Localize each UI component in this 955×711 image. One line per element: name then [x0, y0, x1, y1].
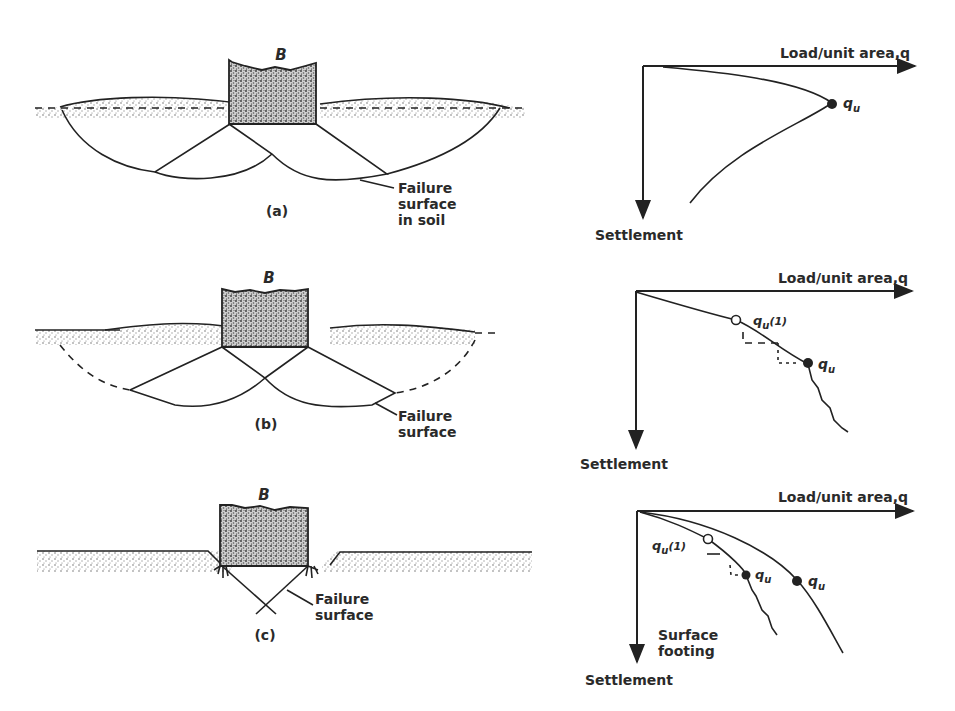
failure-label-c-2: surface [315, 607, 374, 623]
failure-label-b-2: surface [398, 424, 457, 440]
ultimate-load-point-c-local [742, 571, 751, 580]
failure-left-outer [62, 110, 230, 172]
y-axis-label-a: Settlement [595, 227, 683, 243]
soil-c-left [37, 551, 232, 572]
qu-label-b: qu [818, 356, 835, 375]
footing-width-label: B [275, 46, 286, 64]
x-axis-label-c: Load/unit area,q [778, 489, 908, 505]
failure-right-wedge [229, 124, 387, 180]
failure-label-a-3: in soil [398, 212, 445, 228]
footing-a [229, 60, 316, 124]
failure-left-log-spiral [155, 154, 272, 179]
qu-label-c-local: qu [755, 567, 771, 585]
ultimate-load-point-c-surface [792, 576, 802, 586]
failure-b-right-dashed [395, 340, 475, 393]
leader-line-a [360, 180, 394, 188]
bearing-capacity-failure-figure: B Failure surface in soil (a) Load/unit … [0, 0, 955, 711]
first-failure-point-b [732, 316, 741, 325]
failure-c-right [256, 566, 308, 614]
x-axis-label-b: Load/unit area,q [778, 270, 908, 286]
failure-c-left [222, 566, 276, 614]
panel-c-soil-section: B Failure surface (c) [37, 486, 532, 643]
y-axis-label-c: Settlement [585, 672, 673, 688]
footing-width-label-b: B [263, 269, 274, 287]
caption-b: (b) [255, 416, 278, 432]
soil-b-right [330, 325, 475, 345]
failure-b-left-dashed [60, 345, 130, 390]
curve-a [663, 67, 832, 203]
panel-b-load-settlement-chart: Load/unit area,q Settlement qu(1) qu [580, 270, 912, 472]
qu1-label-c: qu(1) [652, 538, 686, 556]
failure-label-c-1: Failure [315, 591, 369, 607]
failure-label-a-1: Failure [398, 180, 452, 196]
surface-footing-note-1: Surface [658, 627, 718, 643]
qu1-label-b: qu(1) [753, 313, 787, 331]
soil-c-right [322, 551, 532, 572]
footing-b [222, 289, 308, 347]
surface-footing-note-2: footing [658, 643, 715, 659]
leader-line-b [375, 403, 397, 415]
failure-label-b-1: Failure [398, 408, 452, 424]
footing-c [220, 505, 308, 566]
local-shear-marks-right [306, 566, 318, 578]
panel-a-load-settlement-chart: Load/unit area,q Settlement qu [595, 45, 915, 243]
qu-label-c-surface: qu [808, 573, 825, 592]
caption-c: (c) [254, 627, 275, 643]
panel-a-soil-section: B Failure surface in soil (a) [35, 46, 525, 228]
footing-width-label-c: B [258, 486, 269, 504]
x-axis-label-a: Load/unit area,q [780, 45, 910, 61]
failure-label-a-2: surface [398, 196, 457, 212]
y-axis-label-b: Settlement [580, 456, 668, 472]
qu-label-a: qu [843, 95, 860, 114]
first-failure-point-c [704, 535, 713, 544]
caption-a: (a) [266, 203, 288, 219]
ultimate-load-point-b [803, 358, 813, 368]
failure-b-wedges [130, 347, 395, 407]
leader-line-c [287, 590, 313, 605]
panel-b-soil-section: B Failure surface (b) [35, 269, 498, 440]
ultimate-load-point-a [827, 99, 837, 109]
soil-b-left [35, 325, 237, 345]
panel-c-load-settlement-chart: Load/unit area,q Settlement qu(1) qu qu … [585, 489, 913, 688]
curve-b [636, 292, 848, 432]
